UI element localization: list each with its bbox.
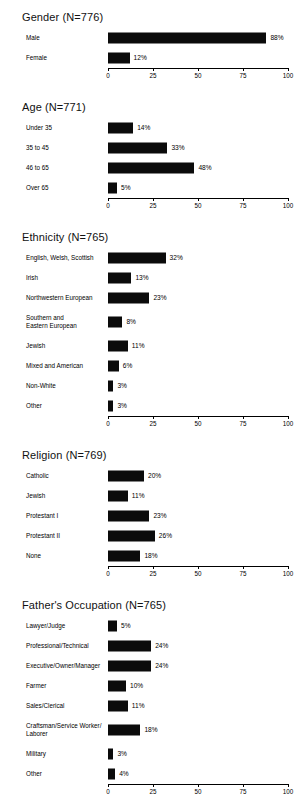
bar-plot-area: 11% — [108, 486, 307, 506]
x-axis: 0255075100 — [108, 566, 288, 582]
bar-plot-area: 6% — [108, 356, 307, 376]
bar-category-label: Lawyer/Judge — [0, 622, 108, 630]
bar-value-label: 23% — [149, 512, 166, 520]
bar-row: None18% — [0, 546, 307, 566]
x-axis-tick-label: 50 — [194, 788, 201, 796]
bar-plot-area: 11% — [108, 336, 307, 356]
bar-row: Craftsman/Service Worker/ Laborer18% — [0, 716, 307, 744]
x-axis-tick — [108, 416, 109, 419]
bar-rows: Catholic20%Jewish11%Protestant I23%Prote… — [0, 466, 307, 566]
bar — [108, 253, 166, 264]
bar-value-label: 32% — [166, 254, 183, 262]
bar-row: Professional/Technical24% — [0, 636, 307, 656]
bar-category-label: 35 to 45 — [0, 144, 108, 152]
bar — [108, 531, 155, 542]
x-axis-tick — [288, 416, 289, 419]
bar-plot-area: 5% — [108, 616, 307, 636]
x-axis-tick — [243, 68, 244, 71]
bar-plot-area: 4% — [108, 764, 307, 784]
chart-panel: Gender (N=776)Male88%Female12%0255075100 — [0, 10, 307, 84]
bar — [108, 53, 130, 64]
panel-container: Gender (N=776)Male88%Female12%0255075100… — [0, 10, 307, 798]
bar — [108, 491, 128, 502]
x-axis-tick — [243, 198, 244, 201]
x-axis-tick-label: 100 — [283, 788, 294, 796]
bar-value-label: 3% — [113, 750, 127, 758]
bar-value-label: 10% — [126, 682, 143, 690]
x-axis-tick — [243, 416, 244, 419]
x-axis-tick — [108, 784, 109, 787]
bar-plot-area: 5% — [108, 178, 307, 198]
bar — [108, 361, 119, 372]
bar-value-label: 11% — [128, 342, 145, 350]
panel-spacer — [0, 432, 307, 448]
bar-plot-area: 18% — [108, 716, 307, 744]
bar-value-label: 24% — [151, 662, 168, 670]
bar — [108, 641, 151, 652]
bar-value-label: 13% — [131, 274, 148, 282]
bar-row: Female12% — [0, 48, 307, 68]
x-axis: 0255075100 — [108, 68, 288, 84]
bar-rows: Lawyer/Judge5%Professional/Technical24%E… — [0, 616, 307, 784]
x-axis-tick — [243, 784, 244, 787]
bar-row: Catholic20% — [0, 466, 307, 486]
bar-plot-area: 48% — [108, 158, 307, 178]
bar — [108, 293, 149, 304]
bar-plot-area: 88% — [108, 28, 307, 48]
x-axis-tick-label: 0 — [106, 202, 110, 210]
bar-row: 35 to 4533% — [0, 138, 307, 158]
bar-value-label: 33% — [167, 144, 184, 152]
bar-value-label: 88% — [266, 34, 283, 42]
bar — [108, 341, 128, 352]
bar-value-label: 11% — [128, 702, 145, 710]
x-axis-tick-label: 75 — [239, 788, 246, 796]
bar-value-label: 18% — [140, 726, 157, 734]
bar-value-label: 12% — [130, 54, 147, 62]
x-axis: 0255075100 — [108, 198, 288, 214]
bar-category-label: Jewish — [0, 342, 108, 350]
bar-row: English, Welsh, Scottish32% — [0, 248, 307, 268]
bar — [108, 769, 115, 780]
bar-category-label: Other — [0, 402, 108, 410]
bar-category-label: Protestant I — [0, 512, 108, 520]
x-axis-tick — [153, 566, 154, 569]
x-axis-tick-label: 50 — [194, 72, 201, 80]
chart-panel: Father's Occupation (N=765)Lawyer/Judge5… — [0, 598, 307, 798]
bar-category-label: Farmer — [0, 682, 108, 690]
bar — [108, 725, 140, 736]
bar — [108, 317, 122, 328]
bar-plot-area: 3% — [108, 376, 307, 396]
bar-category-label: None — [0, 552, 108, 560]
bar-value-label: 5% — [117, 184, 131, 192]
bar-category-label: Catholic — [0, 472, 108, 480]
x-axis-tick-label: 25 — [149, 788, 156, 796]
x-axis-tick-label: 75 — [239, 72, 246, 80]
bar-row: Lawyer/Judge5% — [0, 616, 307, 636]
bar-row: Protestant II26% — [0, 526, 307, 546]
panel-title: Gender (N=776) — [0, 10, 307, 24]
x-axis-tick-label: 0 — [106, 420, 110, 428]
bar-category-label: Over 65 — [0, 184, 108, 192]
bar-category-label: Male — [0, 34, 108, 42]
chart-panel: Age (N=771)Under 3514%35 to 4533%46 to 6… — [0, 100, 307, 214]
bar-row: Northwestern European23% — [0, 288, 307, 308]
bar-row: Male88% — [0, 28, 307, 48]
bar — [108, 143, 167, 154]
x-axis: 0255075100 — [108, 784, 288, 798]
panel-title: Ethnicity (N=765) — [0, 230, 307, 244]
x-axis-tick — [108, 68, 109, 71]
x-axis-tick — [288, 566, 289, 569]
bar-row: Protestant I23% — [0, 506, 307, 526]
bar-category-label: English, Welsh, Scottish — [0, 254, 108, 262]
bar-row: Executive/Owner/Manager24% — [0, 656, 307, 676]
bar-value-label: 14% — [133, 124, 150, 132]
chart-panel: Ethnicity (N=765)English, Welsh, Scottis… — [0, 230, 307, 432]
bar-category-label: Northwestern European — [0, 294, 108, 302]
bar-plot-area: 18% — [108, 546, 307, 566]
x-axis-tick-label: 50 — [194, 570, 201, 578]
bar-value-label: 18% — [140, 552, 157, 560]
bar-plot-area: 11% — [108, 696, 307, 716]
bar-row: Jewish11% — [0, 336, 307, 356]
bar-category-label: Under 35 — [0, 124, 108, 132]
x-axis-tick-label: 50 — [194, 202, 201, 210]
